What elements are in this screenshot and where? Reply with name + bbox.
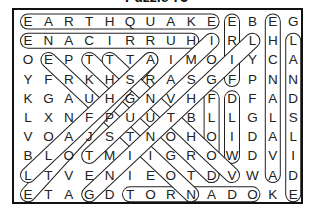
grid-cell[interactable]: U — [140, 12, 160, 31]
grid-cell[interactable]: L — [283, 31, 303, 50]
grid-cell[interactable]: U — [120, 108, 140, 127]
grid-cell[interactable]: E — [222, 12, 242, 31]
grid-cell[interactable]: L — [38, 146, 58, 165]
grid-cell[interactable]: T — [100, 50, 120, 69]
grid-cell[interactable]: O — [202, 146, 222, 165]
grid-cell[interactable]: W — [242, 166, 262, 185]
grid-cell[interactable]: K — [18, 89, 38, 108]
grid-cell[interactable]: D — [283, 89, 303, 108]
grid-cell[interactable]: A — [59, 185, 79, 204]
grid-cell[interactable]: A — [38, 12, 58, 31]
grid-cell[interactable]: B — [181, 108, 201, 127]
grid-cell[interactable]: P — [100, 108, 120, 127]
grid-cell[interactable]: H — [181, 127, 201, 146]
grid-cell[interactable]: L — [18, 108, 38, 127]
grid-cell[interactable]: K — [79, 70, 99, 89]
grid-cell[interactable]: G — [38, 89, 58, 108]
grid-cell[interactable]: D — [202, 166, 222, 185]
grid-cell[interactable]: V — [263, 146, 283, 165]
grid-cell[interactable]: A — [59, 89, 79, 108]
grid-cell[interactable]: R — [59, 12, 79, 31]
grid-cell[interactable]: T — [120, 50, 140, 69]
grid-cell[interactable]: E — [202, 12, 222, 31]
grid-cell[interactable]: O — [38, 127, 58, 146]
grid-cell[interactable]: T — [38, 166, 58, 185]
grid-cell[interactable]: A — [263, 127, 283, 146]
grid-cell[interactable]: O — [242, 185, 262, 204]
grid-cell[interactable]: S — [283, 108, 303, 127]
grid-cell[interactable]: A — [161, 12, 181, 31]
grid-cell[interactable]: A — [283, 50, 303, 69]
grid-cell[interactable]: A — [59, 31, 79, 50]
grid-cell[interactable]: I — [120, 166, 140, 185]
grid-cell[interactable]: P — [242, 70, 262, 89]
grid-cell[interactable]: Q — [120, 12, 140, 31]
grid-cell[interactable]: N — [100, 166, 120, 185]
grid-cell[interactable]: M — [100, 146, 120, 165]
grid-cell[interactable]: I — [161, 50, 181, 69]
grid-cell[interactable]: G — [242, 108, 262, 127]
grid-cell[interactable]: T — [79, 50, 99, 69]
grid-cell[interactable]: G — [283, 12, 303, 31]
grid-cell[interactable]: I — [202, 31, 222, 50]
grid-cell[interactable]: M — [181, 50, 201, 69]
grid-cell[interactable]: E — [18, 31, 38, 50]
grid-cell[interactable]: Y — [242, 50, 262, 69]
grid-cell[interactable]: C — [263, 50, 283, 69]
grid-cell[interactable]: L — [263, 108, 283, 127]
grid-cell[interactable]: E — [18, 12, 38, 31]
grid-cell[interactable]: N — [263, 70, 283, 89]
grid-cell[interactable]: T — [79, 146, 99, 165]
grid-cell[interactable]: U — [79, 89, 99, 108]
grid-cell[interactable]: D — [222, 89, 242, 108]
grid-cell[interactable]: H — [100, 12, 120, 31]
grid-cell[interactable]: K — [181, 12, 201, 31]
grid-cell[interactable]: V — [59, 166, 79, 185]
grid-cell[interactable]: N — [181, 185, 201, 204]
grid-cell[interactable]: I — [140, 146, 160, 165]
grid-cell[interactable]: H — [181, 89, 201, 108]
grid-cell[interactable]: I — [120, 146, 140, 165]
grid-cell[interactable]: V — [222, 166, 242, 185]
grid-cell[interactable]: G — [202, 70, 222, 89]
grid-cell[interactable]: H — [100, 89, 120, 108]
grid-cell[interactable]: N — [59, 108, 79, 127]
grid-cell[interactable]: G — [161, 146, 181, 165]
grid-cell[interactable]: P — [59, 50, 79, 69]
grid-cell[interactable]: X — [38, 108, 58, 127]
grid-cell[interactable]: E — [140, 166, 160, 185]
grid-cell[interactable]: R — [140, 31, 160, 50]
grid-cell[interactable]: I — [283, 146, 303, 165]
grid-cell[interactable]: R — [222, 31, 242, 50]
grid-cell[interactable]: T — [38, 185, 58, 204]
grid-cell[interactable]: L — [242, 31, 262, 50]
grid-cell[interactable]: A — [263, 89, 283, 108]
grid-cell[interactable]: T — [161, 108, 181, 127]
grid-cell[interactable]: D — [283, 166, 303, 185]
grid-cell[interactable]: W — [222, 146, 242, 165]
grid-cell[interactable]: F — [202, 89, 222, 108]
grid-cell[interactable]: K — [263, 185, 283, 204]
grid-cell[interactable]: D — [222, 185, 242, 204]
grid-cell[interactable]: N — [38, 31, 58, 50]
grid-cell[interactable]: A — [263, 166, 283, 185]
grid-cell[interactable]: S — [181, 70, 201, 89]
grid-cell[interactable]: I — [222, 127, 242, 146]
grid-cell[interactable]: F — [79, 108, 99, 127]
grid-cell[interactable]: R — [181, 146, 201, 165]
grid-cell[interactable]: H — [100, 70, 120, 89]
grid-cell[interactable]: F — [222, 70, 242, 89]
grid-cell[interactable]: O — [161, 127, 181, 146]
grid-cell[interactable]: T — [120, 185, 140, 204]
grid-cell[interactable]: E — [18, 185, 38, 204]
grid-cell[interactable]: F — [242, 89, 262, 108]
grid-cell[interactable]: A — [140, 50, 160, 69]
grid-cell[interactable]: E — [283, 185, 303, 204]
grid-cell[interactable]: O — [202, 50, 222, 69]
grid-cell[interactable]: U — [161, 31, 181, 50]
grid-cell[interactable]: A — [202, 185, 222, 204]
grid-cell[interactable]: N — [140, 127, 160, 146]
grid-cell[interactable]: R — [140, 70, 160, 89]
grid-cell[interactable]: R — [59, 70, 79, 89]
grid-cell[interactable]: H — [263, 31, 283, 50]
